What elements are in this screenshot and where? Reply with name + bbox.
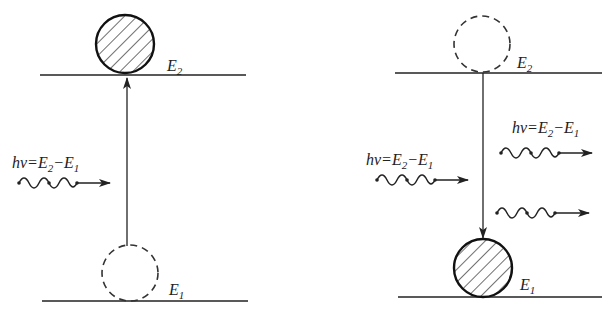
empty-electron-icon (102, 245, 158, 301)
emitted-photon-icon-upper (499, 148, 592, 158)
occupied-electron-icon (96, 15, 154, 73)
absorption-panel: E2 E1 hv=E2−E1 (12, 15, 248, 301)
e2-label: E2 (166, 57, 183, 77)
incident-photon-icon (375, 175, 468, 185)
energy-level-diagram: E2 E1 hv=E2−E1 E2 E1 hv=E2−E1 hv=E2−E1 (0, 0, 613, 314)
incident-photon-icon (17, 178, 110, 188)
e2-label: E2 (516, 54, 533, 74)
photon-energy-label: hv=E2−E1 (12, 154, 79, 174)
stimulated-emission-panel: E2 E1 hv=E2−E1 hv=E2−E1 (366, 16, 602, 297)
e1-label: E1 (168, 281, 184, 301)
e1-label: E1 (519, 276, 535, 296)
incident-photon-energy-label: hv=E2−E1 (366, 151, 433, 171)
emitted-photon-energy-label: hv=E2−E1 (512, 119, 579, 139)
occupied-electron-icon (454, 239, 512, 297)
empty-electron-icon (454, 16, 510, 72)
emitted-photon-icon-lower (495, 208, 589, 218)
